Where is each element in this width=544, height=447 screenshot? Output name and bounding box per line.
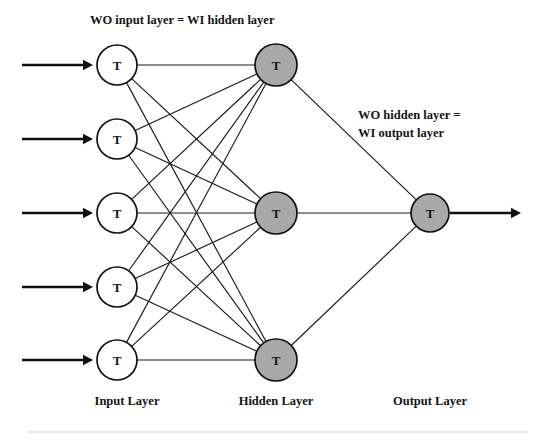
input-node-5-label: T: [113, 353, 122, 368]
edge-input4-hidden3: [135, 295, 257, 351]
caption-output-layer: Output Layer: [393, 394, 467, 408]
layer-caption-group: Input LayerHidden LayerOutput Layer: [95, 394, 468, 408]
edge-input4-hidden2: [135, 222, 257, 279]
edge-group-input-hidden: [126, 65, 266, 360]
edge-input2-hidden1: [135, 74, 257, 131]
label-wo-hidden-wi-output-line2: WI output layer: [358, 126, 445, 140]
input-arrow-head-5: [83, 355, 93, 365]
input-arrow-head-4: [83, 282, 93, 292]
neural-network-diagram: TTTTTTTTT WO input layer = WI hidden lay…: [0, 0, 544, 447]
diagram-canvas: TTTTTTTTT WO input layer = WI hidden lay…: [0, 0, 544, 447]
input-node-2-label: T: [113, 132, 122, 147]
hidden-node-3-label: T: [272, 353, 281, 368]
input-node-4-label: T: [113, 280, 122, 295]
caption-hidden-layer: Hidden Layer: [239, 394, 314, 408]
edge-hidden3-output1: [291, 226, 416, 345]
output-arrow-head: [511, 208, 521, 218]
input-arrow-head-3: [83, 208, 93, 218]
input-arrow-group: [22, 60, 93, 365]
label-wo-hidden-wi-output-line1: WO hidden layer =: [358, 108, 460, 122]
output-node-1-label: T: [426, 206, 435, 221]
input-arrow-head-2: [83, 134, 93, 144]
input-node-1-label: T: [113, 58, 122, 73]
input-arrow-head-1: [83, 60, 93, 70]
label-wo-input-wi-hidden: WO input layer = WI hidden layer: [90, 13, 275, 27]
input-node-3-label: T: [113, 206, 122, 221]
hidden-node-2-label: T: [272, 206, 281, 221]
caption-input-layer: Input Layer: [95, 394, 160, 408]
output-arrow-group: [450, 208, 521, 218]
hidden-node-1-label: T: [272, 58, 281, 73]
